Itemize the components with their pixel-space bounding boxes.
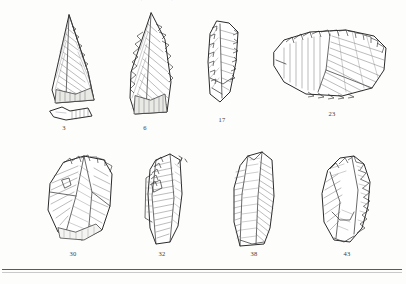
cut-off-caption-strip: cut-off caption line (illegible) (0, 0, 406, 7)
figure-number-30: 30 (61, 250, 85, 257)
page-rule-secondary (2, 272, 402, 273)
figure-number-38: 38 (242, 250, 266, 257)
artifact-drawing-43 (306, 150, 386, 250)
figure-number-17: 17 (210, 116, 234, 123)
artifact-drawing-3 (36, 12, 108, 124)
figure-number-6: 6 (133, 124, 157, 131)
artifact-drawing-6 (113, 10, 185, 128)
figure-number-32: 32 (150, 250, 174, 257)
figure-number-43: 43 (335, 250, 359, 257)
cut-off-caption-text: cut-off caption line (illegible) (72, 0, 174, 1)
artifact-drawing-30 (36, 152, 122, 248)
artifact-drawing-38 (218, 148, 290, 250)
figure-number-23: 23 (320, 110, 344, 117)
artifact-plate: cut-off caption line (illegible) (0, 0, 406, 284)
artifact-drawing-23 (268, 22, 394, 108)
artifact-drawing-32 (130, 148, 196, 250)
artifact-drawing-17 (196, 18, 250, 114)
figure-number-3: 3 (52, 124, 76, 131)
page-rule-primary (2, 269, 402, 270)
